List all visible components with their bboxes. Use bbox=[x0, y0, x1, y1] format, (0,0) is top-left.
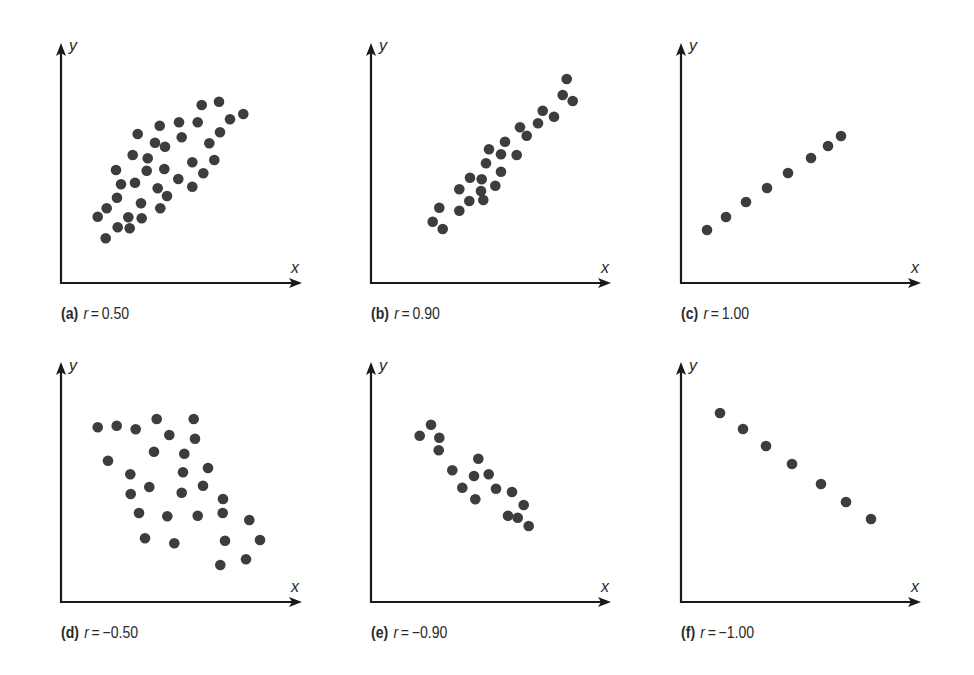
data-point bbox=[92, 422, 103, 433]
data-point bbox=[130, 177, 141, 188]
data-point bbox=[715, 408, 726, 419]
data-point bbox=[101, 203, 112, 214]
data-point bbox=[454, 205, 465, 216]
data-point bbox=[132, 129, 143, 140]
panel-b-caption: (b)r=0.90 bbox=[371, 305, 440, 323]
data-point bbox=[533, 118, 544, 129]
data-point bbox=[521, 130, 532, 141]
panel-letter: (b) bbox=[371, 305, 389, 322]
data-point bbox=[549, 111, 560, 122]
data-point bbox=[217, 508, 228, 519]
data-point bbox=[209, 155, 220, 166]
data-point bbox=[192, 510, 203, 521]
panel-a-caption: (a)r=0.50 bbox=[61, 305, 129, 323]
data-point bbox=[151, 414, 162, 425]
data-point bbox=[112, 192, 123, 203]
data-point bbox=[491, 483, 502, 494]
data-point bbox=[164, 430, 175, 441]
y-axis-label: y bbox=[379, 37, 387, 55]
data-point bbox=[426, 419, 437, 430]
data-point bbox=[437, 224, 448, 235]
r-symbol: r bbox=[703, 305, 708, 322]
data-point bbox=[192, 117, 203, 128]
scatter-panel-d bbox=[56, 362, 302, 607]
data-point bbox=[447, 465, 458, 476]
data-point bbox=[187, 157, 198, 168]
data-point bbox=[144, 482, 155, 493]
r-value: −0.90 bbox=[412, 624, 448, 641]
data-point bbox=[125, 469, 136, 480]
x-axis-label: x bbox=[291, 259, 299, 277]
data-point bbox=[141, 165, 152, 176]
data-point bbox=[136, 198, 147, 209]
data-point bbox=[160, 141, 171, 152]
data-point bbox=[507, 487, 518, 498]
data-point bbox=[454, 184, 465, 195]
data-point bbox=[500, 136, 511, 147]
data-point bbox=[111, 420, 122, 431]
data-point bbox=[469, 471, 480, 482]
data-point bbox=[162, 511, 173, 522]
data-point bbox=[159, 164, 170, 175]
r-value: −0.50 bbox=[102, 624, 138, 641]
data-point bbox=[162, 191, 173, 202]
y-axis-label: y bbox=[689, 357, 697, 375]
data-point bbox=[134, 508, 145, 519]
data-point bbox=[490, 180, 501, 191]
data-point bbox=[478, 195, 489, 206]
data-point bbox=[140, 533, 151, 544]
data-point bbox=[496, 166, 507, 177]
data-point bbox=[150, 137, 161, 148]
data-point bbox=[123, 212, 134, 223]
data-point bbox=[433, 445, 444, 456]
data-point bbox=[434, 432, 445, 443]
x-axis-label: x bbox=[601, 578, 609, 596]
r-symbol: r bbox=[393, 624, 398, 641]
data-point bbox=[561, 74, 572, 85]
data-point bbox=[787, 459, 798, 470]
data-point bbox=[244, 515, 255, 526]
data-point bbox=[100, 233, 111, 244]
data-point bbox=[155, 203, 166, 214]
data-point bbox=[512, 512, 523, 523]
data-point bbox=[188, 414, 199, 425]
data-point bbox=[136, 213, 147, 224]
panel-e-caption: (e)r=−0.90 bbox=[371, 624, 447, 642]
panel-f-caption: (f)r=−1.00 bbox=[681, 624, 754, 642]
data-point bbox=[203, 463, 214, 474]
data-point bbox=[187, 181, 198, 192]
r-value: −1.00 bbox=[719, 624, 755, 641]
x-axis-label: x bbox=[291, 578, 299, 596]
data-point bbox=[762, 183, 773, 194]
data-point bbox=[476, 186, 487, 197]
x-axis-label: x bbox=[601, 259, 609, 277]
data-point bbox=[738, 424, 749, 435]
data-point bbox=[515, 122, 526, 133]
data-point bbox=[238, 109, 249, 120]
correlation-figure: (a)r=0.50 (b)r=0.90 (c)r=1.00 (d)r=−0.50… bbox=[0, 0, 974, 675]
data-point bbox=[836, 131, 847, 142]
data-point bbox=[92, 211, 103, 222]
data-point bbox=[169, 538, 180, 549]
data-point bbox=[806, 153, 817, 164]
data-point bbox=[173, 174, 184, 185]
data-point bbox=[149, 446, 160, 457]
data-point bbox=[427, 216, 438, 227]
data-point bbox=[214, 96, 225, 107]
data-point bbox=[481, 158, 492, 169]
data-point bbox=[761, 441, 772, 452]
data-point bbox=[783, 168, 794, 179]
data-point bbox=[124, 223, 135, 234]
panel-c-caption: (c)r=1.00 bbox=[681, 305, 749, 323]
data-point bbox=[496, 149, 507, 160]
data-point bbox=[414, 430, 425, 441]
data-point bbox=[473, 453, 484, 464]
data-point bbox=[741, 197, 752, 208]
data-point bbox=[484, 144, 495, 155]
data-point bbox=[204, 138, 215, 149]
scatter-panel-e bbox=[366, 362, 611, 607]
data-point bbox=[537, 105, 548, 116]
data-point bbox=[178, 467, 189, 478]
r-symbol: r bbox=[394, 305, 399, 322]
data-point bbox=[476, 174, 487, 185]
